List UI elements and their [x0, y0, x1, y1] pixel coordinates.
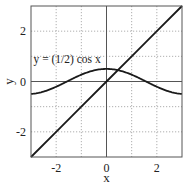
- chart: -202 -202 y = (1/2) cos x x y: [0, 0, 185, 188]
- x-tick-label: 2: [154, 161, 160, 175]
- y-axis-label: y: [1, 78, 16, 85]
- annotations: y = (1/2) cos x: [34, 53, 101, 66]
- curve-annotation: y = (1/2) cos x: [34, 53, 101, 66]
- x-axis-label: x: [103, 170, 110, 185]
- y-tick-label: -2: [16, 125, 26, 139]
- y-tick-label: 2: [20, 24, 26, 38]
- plot-svg: -202 -202 y = (1/2) cos x x y: [0, 0, 185, 188]
- x-tick-label: -2: [51, 161, 61, 175]
- y-tick-labels: -202: [16, 24, 26, 139]
- y-tick-label: 0: [20, 75, 26, 89]
